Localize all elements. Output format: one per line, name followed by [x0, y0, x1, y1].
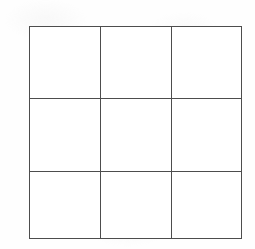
- grid-cell-r2c2[interactable]: [101, 99, 171, 171]
- figure-description: Empty 3 by 3 grid of squares drawn with …: [0, 0, 1, 1]
- grid-line-vertical-right: [241, 26, 242, 239]
- grid-cell-r1c3[interactable]: [172, 27, 240, 98]
- grid-line-vertical-left: [29, 26, 30, 239]
- grid-figure: [29, 26, 242, 239]
- grid-cell-r2c3[interactable]: [172, 99, 240, 171]
- grid-cell-r2c1[interactable]: [30, 99, 100, 171]
- page-canvas: Empty 3 by 3 grid of squares drawn with …: [0, 0, 255, 249]
- grid-line-vertical-1: [100, 26, 101, 239]
- grid-cell-r1c1[interactable]: [30, 27, 100, 98]
- grid-line-horizontal-top: [29, 26, 242, 27]
- grid-cell-r3c3[interactable]: [172, 172, 240, 237]
- grid-cell-r3c2[interactable]: [101, 172, 171, 237]
- grid-cell-r1c2[interactable]: [101, 27, 171, 98]
- grid-line-horizontal-bottom: [29, 238, 242, 239]
- grid-line-horizontal-1: [29, 98, 242, 99]
- grid-line-vertical-2: [171, 26, 172, 239]
- grid-cell-r3c1[interactable]: [30, 172, 100, 237]
- grid-line-horizontal-2: [29, 171, 242, 172]
